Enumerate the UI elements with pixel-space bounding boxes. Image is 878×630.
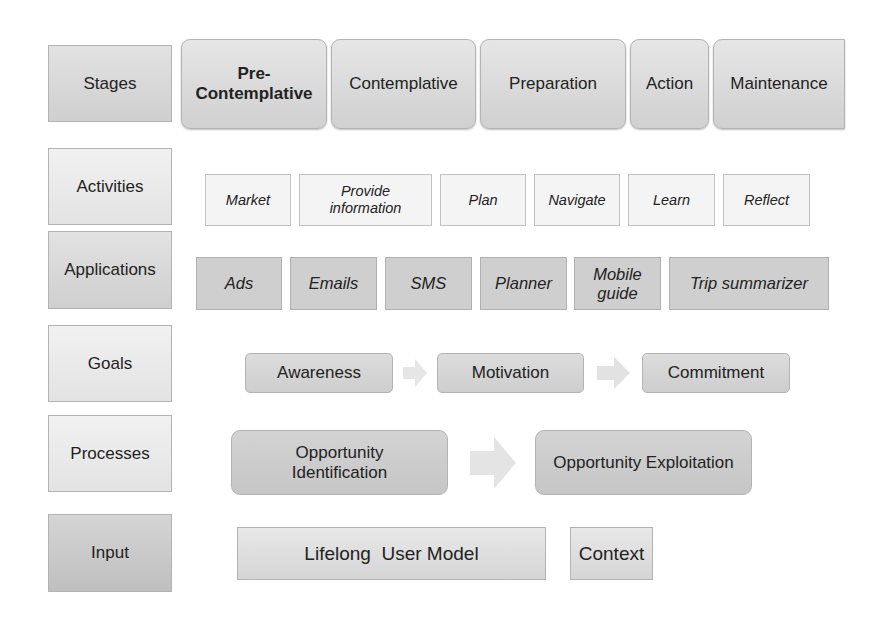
process-text: Opportunity Exploitation [553,453,734,473]
application-text: Ads [225,274,253,293]
row-label-text: Goals [88,354,132,374]
input-context: Context [570,527,653,580]
goal-text: Motivation [472,363,549,383]
activity-text: Learn [653,192,690,209]
stage-pre-contemplative: Pre-Contemplative [181,39,327,129]
stage-text: Contemplative [349,74,458,94]
stage-text: Preparation [509,74,597,94]
activity-navigate: Navigate [534,174,620,226]
input-text: Lifelong User Model [304,543,478,565]
goal-text: Commitment [668,363,764,383]
activity-text: Navigate [548,192,605,209]
row-label-text: Input [91,543,129,563]
stage-text-line1: Pre- [195,64,312,84]
row-label-processes: Processes [48,415,172,492]
application-text-line2: guide [593,284,642,303]
row-label-goals: Goals [48,325,172,402]
application-text: Planner [495,274,552,293]
application-text: SMS [411,274,447,293]
stage-text: Maintenance [730,74,827,94]
application-sms: SMS [385,257,472,310]
goal-motivation: Motivation [437,353,584,393]
stage-maintenance: Maintenance [713,39,845,129]
application-text: Emails [309,274,359,293]
process-opportunity-identification: OpportunityIdentification [231,430,448,495]
arrow-right-icon [470,437,516,489]
activity-reflect: Reflect [723,174,810,226]
row-label-text: Stages [84,74,137,94]
row-label-text: Applications [64,260,156,280]
row-label-applications: Applications [48,231,172,309]
process-text-line2: Identification [292,463,387,483]
stage-text-line2: Contemplative [195,84,312,104]
activity-provide-information: Provideinformation [299,174,432,226]
application-trip-summarizer: Trip summarizer [669,257,829,310]
row-label-stages: Stages [48,45,172,122]
activity-text: Market [226,192,270,209]
activity-market: Market [205,174,291,226]
stage-action: Action [630,39,709,129]
stage-text: Action [646,74,693,94]
activity-text: Plan [468,192,497,209]
arrow-right-icon [403,357,427,389]
activity-text: Reflect [744,192,789,209]
process-text-line1: Opportunity [292,443,387,463]
goal-awareness: Awareness [245,353,393,393]
application-text: Trip summarizer [690,274,808,293]
input-lifelong-user-model: Lifelong User Model [237,527,546,580]
process-opportunity-exploitation: Opportunity Exploitation [535,430,752,495]
application-mobile-guide: Mobileguide [574,257,661,310]
stage-contemplative: Contemplative [331,39,476,129]
stage-preparation: Preparation [480,39,626,129]
row-label-activities: Activities [48,148,172,225]
application-text-line1: Mobile [593,265,642,284]
row-label-text: Processes [70,444,149,464]
row-label-text: Activities [76,177,143,197]
input-text: Context [579,543,644,565]
application-planner: Planner [480,257,567,310]
arrow-right-icon [597,356,630,390]
application-ads: Ads [196,257,282,310]
goal-text: Awareness [277,363,361,383]
activity-text-line1: Provide [330,183,402,200]
application-emails: Emails [290,257,377,310]
row-label-input: Input [48,514,172,592]
activity-learn: Learn [628,174,715,226]
activity-plan: Plan [440,174,526,226]
goal-commitment: Commitment [642,353,790,393]
activity-text-line2: information [330,200,402,217]
